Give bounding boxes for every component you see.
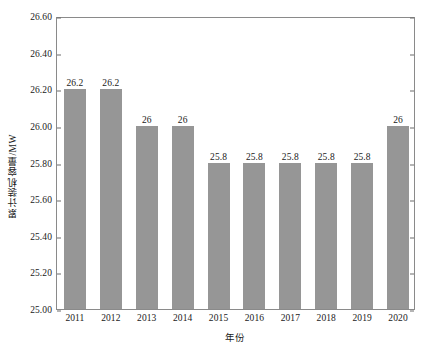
bar <box>243 163 265 310</box>
y-tick-label: 25.60 <box>30 196 52 206</box>
y-tick-label: 25.40 <box>30 233 52 243</box>
y-tick-mark-right <box>410 201 414 202</box>
bar-value-label: 26 <box>393 115 403 125</box>
y-tick-mark-right <box>410 311 414 312</box>
bar <box>136 126 158 309</box>
y-tick-mark-right <box>410 18 414 19</box>
plot-area: 25.0025.2025.4025.6025.8026.0026.2026.40… <box>56 17 415 310</box>
y-tick-mark <box>57 311 61 312</box>
y-tick-mark <box>57 164 61 165</box>
x-tick-label: 2017 <box>281 314 300 324</box>
y-tick-label: 26.20 <box>30 87 52 97</box>
x-tick-label: 2015 <box>209 314 228 324</box>
bar-value-label: 26 <box>178 115 188 125</box>
y-tick-mark-right <box>410 164 414 165</box>
bar-value-label: 25.8 <box>210 152 227 162</box>
x-tick-label: 2019 <box>352 314 371 324</box>
y-tick-label: 25.00 <box>30 306 52 316</box>
y-tick-label: 26.40 <box>30 50 52 60</box>
bar <box>100 89 122 309</box>
bar <box>351 163 373 310</box>
bar-value-label: 25.8 <box>246 152 263 162</box>
y-tick-mark-right <box>410 91 414 92</box>
y-tick-label: 25.20 <box>30 270 52 280</box>
bar-chart-figure: 累计装机容量/MW 25.0025.2025.4025.6025.8026.00… <box>0 0 430 351</box>
y-tick-label: 26.60 <box>30 13 52 23</box>
bar-value-label: 26.2 <box>102 79 119 89</box>
y-tick-mark-right <box>410 274 414 275</box>
y-tick-mark-right <box>410 237 414 238</box>
y-tick-mark <box>57 201 61 202</box>
y-tick-mark-right <box>410 127 414 128</box>
x-tick-label: 2018 <box>317 314 336 324</box>
bar <box>208 163 230 310</box>
bar-value-label: 26.2 <box>66 79 83 89</box>
y-tick-label: 26.00 <box>30 123 52 133</box>
x-tick-label: 2016 <box>245 314 264 324</box>
bar <box>315 163 337 310</box>
bar <box>279 163 301 310</box>
x-axis-title: 年份 <box>56 334 415 344</box>
x-tick-label: 2012 <box>101 314 120 324</box>
x-tick-label: 2020 <box>388 314 407 324</box>
x-tick-label: 2014 <box>173 314 192 324</box>
y-tick-mark <box>57 274 61 275</box>
bar-value-label: 26 <box>142 115 152 125</box>
x-tick-label: 2013 <box>137 314 156 324</box>
x-tick-label: 2011 <box>65 314 84 324</box>
bar <box>64 89 86 309</box>
bar-value-label: 25.8 <box>318 152 335 162</box>
bar-value-label: 25.8 <box>354 152 371 162</box>
y-tick-mark <box>57 91 61 92</box>
bar <box>387 126 409 309</box>
y-tick-mark <box>57 127 61 128</box>
bar <box>172 126 194 309</box>
y-axis-title: 累计装机容量/MW <box>9 134 19 218</box>
y-tick-mark-right <box>410 54 414 55</box>
bar-value-label: 25.8 <box>282 152 299 162</box>
y-tick-mark <box>57 237 61 238</box>
y-tick-mark <box>57 18 61 19</box>
y-tick-label: 25.80 <box>30 160 52 170</box>
y-tick-mark <box>57 54 61 55</box>
